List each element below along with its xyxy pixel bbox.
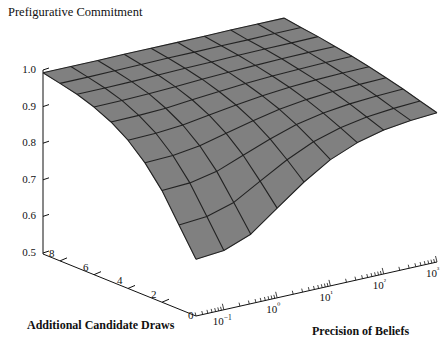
- z-axis-tick-label: 1.0: [2, 64, 36, 75]
- origin-tick-label: 0: [188, 310, 194, 321]
- axis-title-precision-of-beliefs: Precision of Beliefs: [312, 325, 409, 337]
- plot-canvas: [0, 0, 445, 348]
- axis-title-additional-candidate-draws: Additional Candidate Draws: [27, 319, 174, 331]
- precision-axis-tick-label: 10−1: [213, 314, 232, 327]
- draws-axis-tick-label: 8: [49, 248, 55, 259]
- surface-plot-figure: Prefigurative Commitment 1.00.90.80.70.6…: [0, 0, 445, 348]
- precision-axis-tick-label: 10³: [426, 266, 439, 279]
- z-axis-tick-label: 0.7: [2, 174, 36, 185]
- z-axis-tick-label: 0.6: [2, 210, 36, 221]
- draws-axis-tick-label: 2: [151, 289, 157, 300]
- z-axis-tick-label: 0.5: [2, 247, 36, 258]
- precision-axis-tick-label: 10⁰: [266, 302, 280, 315]
- precision-axis-tick-label: 10¹: [319, 290, 332, 303]
- z-axis-tick-label: 0.9: [2, 101, 36, 112]
- draws-axis-tick-label: 4: [117, 275, 123, 286]
- z-axis-ticks: [43, 68, 49, 253]
- precision-axis-tick-label: 10²: [373, 278, 386, 291]
- z-axis-tick-label: 0.8: [2, 137, 36, 148]
- draws-axis-tick-label: 6: [83, 262, 89, 273]
- precision-axis-ticks: [195, 256, 437, 316]
